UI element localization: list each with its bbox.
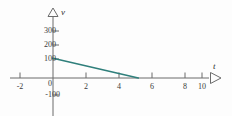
x-tick-label-4: 4 [111, 83, 127, 91]
y-axis-variable-label: v [61, 8, 65, 17]
velocity-time-figure: 300 200 100 0 -100 -2 2 4 6 8 10 v t [0, 0, 232, 116]
x-tick-label-8: 8 [177, 83, 193, 91]
x-tick-label-6: 6 [144, 83, 160, 91]
y-tick-label-minus100: -100 [36, 91, 60, 99]
x-axis-arrow-icon [211, 73, 222, 84]
y-tick-label-200: 200 [36, 41, 56, 49]
plot-canvas [0, 0, 232, 116]
y-tick-label-100: 100 [36, 55, 56, 63]
x-axis-ticks [20, 73, 202, 79]
y-tick-label-0: 0 [36, 80, 52, 88]
x-tick-label-minus2: -2 [12, 83, 28, 91]
y-tick-label-300: 300 [36, 27, 56, 35]
y-axis-arrow-icon [48, 8, 58, 17]
x-tick-label-10: 10 [194, 83, 210, 91]
x-tick-label-2: 2 [78, 83, 94, 91]
velocity-line-series [53, 58, 138, 78]
x-axis-variable-label: t [213, 62, 216, 71]
